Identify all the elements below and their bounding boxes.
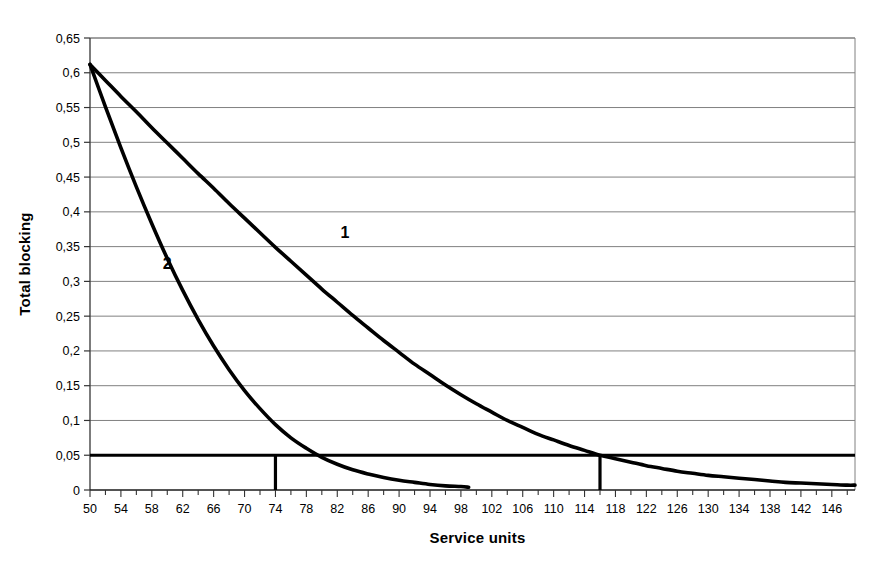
x-tick-label-74: 74 <box>269 502 283 516</box>
x-tick-label-146: 146 <box>821 502 842 516</box>
series-line-1 <box>90 64 855 485</box>
x-axis-title: Service units <box>430 529 526 546</box>
x-tick-label-110: 110 <box>544 502 564 516</box>
x-tick-label-86: 86 <box>361 502 375 516</box>
reference-lines <box>90 455 855 490</box>
x-tick-label-134: 134 <box>729 502 750 516</box>
x-tick-label-130: 130 <box>698 502 719 516</box>
y-tick-label-0,15: 0,15 <box>56 379 80 393</box>
x-tick-label-118: 118 <box>605 502 625 516</box>
series-line-2 <box>90 64 469 487</box>
x-tick-label-138: 138 <box>760 502 781 516</box>
y-tick-label-0,65: 0,65 <box>56 32 80 46</box>
x-tick-label-58: 58 <box>145 502 159 516</box>
y-tick-label-0,4: 0,4 <box>63 205 80 219</box>
x-tick-label-142: 142 <box>790 502 811 516</box>
x-tick-label-102: 102 <box>481 502 502 516</box>
x-tick-label-62: 62 <box>176 502 190 516</box>
gridlines <box>90 38 855 455</box>
plot-frame <box>90 38 855 490</box>
chart-figure: 00,050,10,150,20,250,30,350,40,450,50,55… <box>0 0 891 576</box>
y-tick-label-0: 0 <box>73 484 80 498</box>
y-tick-label-0,5: 0,5 <box>63 136 80 150</box>
y-tick-label-0,05: 0,05 <box>56 449 80 463</box>
x-tick-label-54: 54 <box>114 502 128 516</box>
y-tick-label-0,25: 0,25 <box>56 310 80 324</box>
x-tick-label-82: 82 <box>330 502 344 516</box>
x-tick-label-122: 122 <box>636 502 657 516</box>
x-tick-label-90: 90 <box>392 502 406 516</box>
curve-label-1: 1 <box>341 224 350 241</box>
x-tick-label-98: 98 <box>454 502 468 516</box>
y-tick-label-0,2: 0,2 <box>63 344 80 358</box>
x-tick-label-66: 66 <box>207 502 221 516</box>
x-tick-label-50: 50 <box>83 502 97 516</box>
y-tick-label-0,6: 0,6 <box>63 66 80 80</box>
x-tick-label-126: 126 <box>667 502 688 516</box>
y-tick-label-0,55: 0,55 <box>56 101 80 115</box>
chart-canvas: 00,050,10,150,20,250,30,350,40,450,50,55… <box>0 0 891 576</box>
x-tick-label-70: 70 <box>238 502 252 516</box>
x-tick-label-78: 78 <box>299 502 313 516</box>
x-tick-label-106: 106 <box>512 502 533 516</box>
x-tick-label-114: 114 <box>575 502 595 516</box>
x-axis-ticks: 5054586266707478828690949810210611011411… <box>83 490 847 516</box>
y-tick-label-0,35: 0,35 <box>56 240 80 254</box>
y-tick-label-0,45: 0,45 <box>56 171 80 185</box>
y-tick-label-0,3: 0,3 <box>63 275 80 289</box>
y-axis-ticks: 00,050,10,150,20,250,30,350,40,450,50,55… <box>56 32 90 498</box>
y-axis-title: Total blocking <box>16 212 33 315</box>
y-tick-label-0,1: 0,1 <box>63 414 80 428</box>
x-tick-label-94: 94 <box>423 502 437 516</box>
curve-label-2: 2 <box>163 255 172 272</box>
data-series <box>90 64 855 487</box>
